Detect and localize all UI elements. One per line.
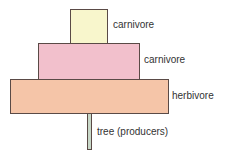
producer-stem [87,113,92,150]
herbivore-block [10,79,169,114]
top-carnivore-label: carnivore [113,20,154,30]
secondary-carnivore-block [38,43,140,80]
herbivore-label: herbivore [172,91,214,101]
top-carnivore-block [70,9,108,44]
producer-label: tree (producers) [97,127,168,137]
secondary-carnivore-label: carnivore [144,55,185,65]
